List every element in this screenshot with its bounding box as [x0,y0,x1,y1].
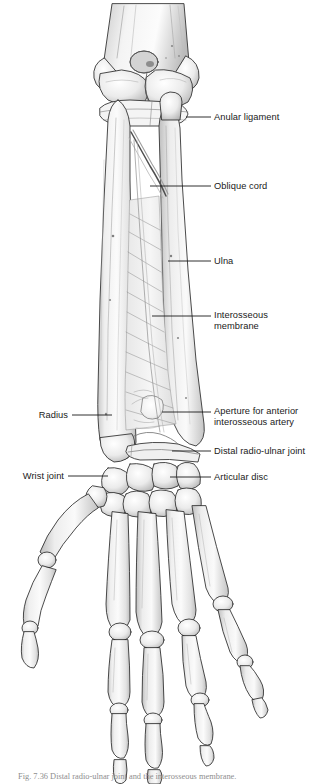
thumb-proximal-phalanx [23,566,56,626]
radial-head [160,92,182,120]
label-aperture-anterior-interosseous-artery: Aperture for anterior interosseous arter… [214,406,298,429]
middle-phalanx-2 [111,714,129,758]
metacarpal-3 [136,512,162,638]
label-distal-radio-ulnar-joint: Distal radio-ulnar joint [214,446,305,457]
label-ulna: Ulna [214,256,233,267]
metacarpal-4 [166,510,196,626]
distal-phalanx-4 [200,746,214,766]
metacarpal-2 [106,512,130,630]
proximal-phalanx-2 [108,640,130,708]
metacarpal-5 [192,506,228,604]
middle-phalanx-5 [240,666,264,701]
thumb-distal-phalanx [21,632,38,668]
forearm-skeleton-illustration [0,0,331,784]
label-articular-disc: Articular disc [214,472,268,483]
label-radius: Radius [28,410,68,421]
label-anular-ligament: Anular ligament [214,112,279,123]
proximal-phalanx-5 [218,610,248,662]
middle-phalanx-3 [145,724,163,768]
carpal-bones [86,462,202,517]
figure-canvas: Anular ligamentOblique cordUlnaInterosse… [0,0,331,784]
label-wrist-joint: Wrist joint [22,471,64,482]
proximal-phalanx-4 [182,636,206,700]
figure-caption: Fig. 7.36 Distal radio-ulnar joint and t… [18,771,318,784]
thumb-mcp-joint [38,552,56,568]
label-interosseous-membrane: Interosseous membrane [214,310,268,333]
middle-phalanx-4 [194,704,213,745]
distal-phalanx-5 [252,698,268,718]
label-oblique-cord: Oblique cord [214,181,267,192]
proximal-phalanx-3 [142,648,164,718]
